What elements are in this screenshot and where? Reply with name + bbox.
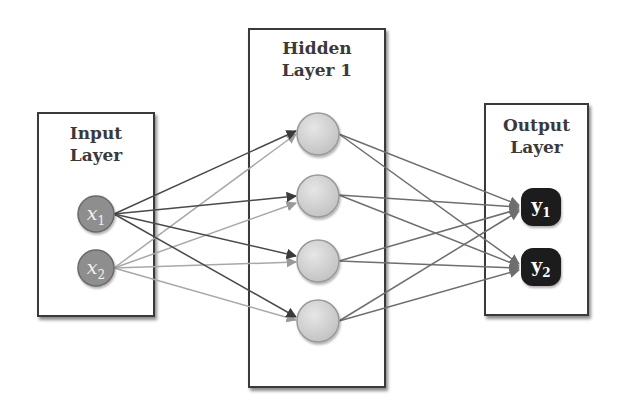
y2-sub: 2 [542, 266, 550, 280]
edge-x2-h4 [114, 268, 296, 320]
input-label-x1: x1 [78, 201, 114, 233]
hidden-node-1 [297, 113, 339, 155]
x2-sub: 2 [98, 268, 106, 282]
edge-h3-y2 [339, 261, 519, 268]
y1-sub: 1 [542, 206, 550, 220]
edge-x1-h4 [114, 214, 296, 317]
edge-x1-h3 [114, 214, 296, 256]
edges-x2-hidden [114, 134, 296, 320]
edge-h4-y2 [339, 270, 519, 321]
y2-var: y [531, 254, 542, 276]
x2-var: x [87, 256, 98, 278]
hidden-node-2 [297, 175, 339, 217]
hidden-node-3 [297, 240, 339, 282]
edge-h1-y1 [339, 134, 519, 205]
output-label-y2: y2 [521, 253, 561, 285]
edge-h1-y2 [339, 134, 519, 264]
x1-var: x [87, 202, 98, 224]
input-label-x2: x2 [78, 255, 114, 287]
x1-sub: 1 [98, 214, 106, 228]
hidden-node-4 [297, 300, 339, 342]
output-label-y1: y1 [521, 193, 561, 225]
edge-x1-h2 [114, 196, 296, 214]
edge-h4-y1 [339, 211, 519, 321]
edge-h3-y1 [339, 209, 519, 261]
edges-hidden-output [339, 134, 519, 321]
y1-var: y [531, 194, 542, 216]
edges-x1-hidden [114, 131, 296, 317]
